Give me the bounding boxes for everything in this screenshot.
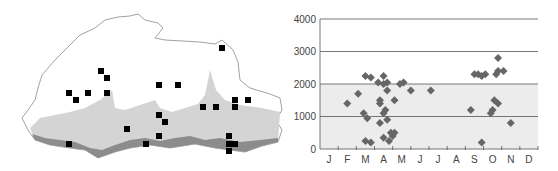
site-marker <box>156 82 162 88</box>
x-tick-label: J <box>436 154 441 165</box>
site-marker <box>232 141 238 147</box>
site-marker <box>66 141 72 147</box>
map-svg <box>0 0 285 171</box>
site-marker <box>232 104 238 110</box>
site-marker <box>226 133 232 139</box>
site-marker <box>245 97 251 103</box>
x-tick-label: A <box>380 154 387 165</box>
site-marker <box>200 104 206 110</box>
site-marker <box>104 90 110 96</box>
site-marker <box>226 148 232 154</box>
elevation-by-month-chart: 01000200030004000 JFMAMJJASOND <box>290 0 558 171</box>
site-marker <box>98 68 104 74</box>
site-marker <box>85 90 91 96</box>
site-marker <box>156 112 162 118</box>
x-tick-label: M <box>361 154 369 165</box>
x-tick-label: F <box>344 154 350 165</box>
site-marker <box>226 141 232 147</box>
data-point <box>380 72 388 80</box>
x-tick-label: J <box>327 154 332 165</box>
site-marker <box>213 104 219 110</box>
x-tick-labels: JFMAMJJASOND <box>327 154 533 165</box>
site-marker <box>143 141 149 147</box>
site-marker <box>156 133 162 139</box>
elevation-map <box>0 0 285 171</box>
y-tick-label: 4000 <box>294 14 317 25</box>
site-marker <box>66 90 72 96</box>
y-tick-label: 1000 <box>294 111 317 122</box>
site-marker <box>219 45 225 51</box>
x-tick-label: J <box>417 154 422 165</box>
site-marker <box>175 82 181 88</box>
site-marker <box>232 97 238 103</box>
data-point <box>499 67 507 75</box>
data-point <box>494 54 502 62</box>
chart-svg: 01000200030004000 JFMAMJJASOND <box>290 0 558 171</box>
x-tick-label: A <box>453 154 460 165</box>
site-marker <box>124 126 130 132</box>
y-tick-labels: 01000200030004000 <box>294 14 317 155</box>
y-tick-label: 2000 <box>294 79 317 90</box>
site-marker <box>162 119 168 125</box>
site-marker <box>73 97 79 103</box>
x-tick-label: D <box>525 154 532 165</box>
site-marker <box>104 75 110 81</box>
x-tick-label: O <box>489 154 497 165</box>
x-tick-label: N <box>507 154 514 165</box>
x-tick-label: S <box>471 154 478 165</box>
y-tick-label: 3000 <box>294 46 317 57</box>
x-tick-label: M <box>398 154 406 165</box>
y-tick-label: 0 <box>310 144 316 155</box>
